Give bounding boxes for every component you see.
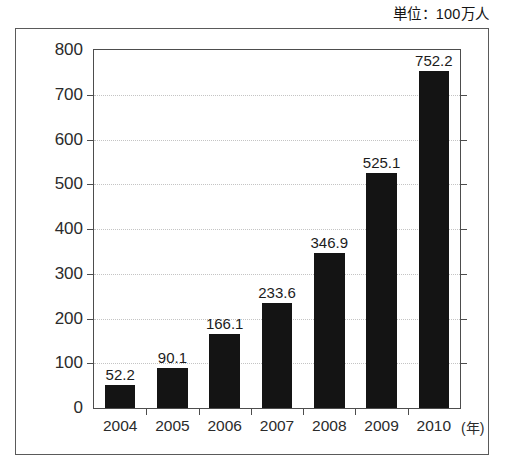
y-axis-label: 0 — [74, 398, 83, 418]
y-axis-tick-right — [460, 229, 467, 230]
bar-value-label: 166.1 — [206, 315, 244, 332]
y-axis-tick — [87, 363, 94, 364]
bar — [209, 334, 240, 408]
bar — [157, 368, 188, 408]
y-axis-tick-right — [460, 184, 467, 185]
x-axis-label: 2006 — [207, 417, 241, 435]
y-axis-tick — [87, 140, 94, 141]
x-axis-label: 2009 — [364, 417, 398, 435]
bar — [366, 173, 397, 408]
bar-value-label: 752.2 — [415, 52, 453, 69]
y-axis-label: 200 — [55, 309, 83, 329]
bar-value-label: 525.1 — [363, 154, 401, 171]
y-axis-label: 400 — [55, 219, 83, 239]
x-axis-label: 2008 — [312, 417, 346, 435]
y-axis-tick — [87, 274, 94, 275]
bar-value-label: 233.6 — [258, 284, 296, 301]
x-axis-tick — [251, 408, 252, 415]
y-axis-label: 300 — [55, 264, 83, 284]
x-axis-unit-label: (年) — [461, 417, 484, 437]
x-axis-tick — [408, 408, 409, 415]
plot-inner: 0100200300400500600700800 52.290.1166.12… — [94, 50, 460, 408]
y-axis-tick-right — [460, 363, 467, 364]
y-axis-tick — [87, 319, 94, 320]
y-axis-tick — [87, 229, 94, 230]
gridline — [94, 140, 460, 141]
x-axis-tick — [146, 408, 147, 415]
plot-area: 0100200300400500600700800 52.290.1166.12… — [93, 49, 461, 409]
gridline — [94, 229, 460, 230]
y-axis-tick — [87, 95, 94, 96]
bar — [105, 385, 136, 408]
x-axis-label: 2005 — [155, 417, 189, 435]
x-axis-tick — [303, 408, 304, 415]
gridline — [94, 184, 460, 185]
y-axis-label: 500 — [55, 174, 83, 194]
y-axis-tick-right — [460, 140, 467, 141]
bar-value-label: 90.1 — [158, 349, 187, 366]
x-axis-tick — [355, 408, 356, 415]
gridline — [94, 95, 460, 96]
y-axis-tick-right — [460, 319, 467, 320]
bar — [419, 71, 450, 408]
x-axis-tick — [199, 408, 200, 415]
x-axis-label: 2004 — [103, 417, 137, 435]
bar-value-label: 52.2 — [106, 366, 135, 383]
x-axis-label: 2007 — [260, 417, 294, 435]
x-axis-label: 2010 — [417, 417, 451, 435]
y-axis-label: 700 — [55, 85, 83, 105]
bar — [314, 253, 345, 408]
y-axis-label: 800 — [55, 40, 83, 60]
y-axis-tick-right — [460, 274, 467, 275]
bar-value-label: 346.9 — [311, 234, 349, 251]
gridline — [94, 274, 460, 275]
bar — [262, 303, 293, 408]
y-axis-label: 100 — [55, 353, 83, 373]
y-axis-label: 600 — [55, 130, 83, 150]
y-axis-tick — [87, 184, 94, 185]
y-axis-tick-right — [460, 95, 467, 96]
unit-caption: 単位：100万人 — [393, 2, 489, 23]
chart-frame: 0100200300400500600700800 52.290.1166.12… — [15, 28, 489, 455]
